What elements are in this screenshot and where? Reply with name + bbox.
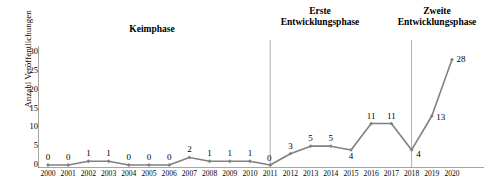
data-point-labels: 0011000211103554111141328 [38,40,484,168]
data-point-label: 4 [407,149,431,159]
data-point-label: 5 [319,133,343,143]
y-axis-tick-label: 5 [16,141,38,150]
y-axis-tick-label: 15 [16,104,38,113]
data-point-label: 13 [429,112,453,122]
y-axis-tick-label: 10 [16,122,38,131]
y-axis-tick-label: 25 [16,66,38,75]
publications-per-year-line-chart: Keimphase Erste Entwicklungsphase Zweite… [0,0,492,191]
phase-label-keimphase: Keimphase [92,24,212,35]
y-axis-tick-label: 20 [16,85,38,94]
x-axis-ticks: 2000200120022003200420052006200720082009… [38,169,484,183]
y-axis-ticks: 051015202530 [8,0,38,191]
y-axis-tick-label: 30 [16,47,38,56]
data-point-label: 28 [449,54,473,64]
y-axis-tick-label: 0 [16,160,38,169]
data-point-label: 0 [257,153,281,163]
phase-label-zweite-entwicklungsphase: Zweite Entwicklungsphase [382,6,492,28]
phase-label-erste-entwicklungsphase: Erste Entwicklungsphase [262,6,378,28]
x-axis-tick-label: 2020 [437,169,467,179]
data-point-label: 11 [379,111,403,121]
data-point-label: 4 [339,151,363,161]
